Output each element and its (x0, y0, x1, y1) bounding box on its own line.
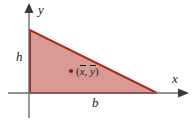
centroid-y-letter: y (90, 65, 95, 77)
x-axis-arrowhead-icon (178, 89, 189, 98)
centroid-point-marker (69, 69, 73, 73)
x-overbar (80, 65, 86, 66)
height-label: h (16, 50, 23, 63)
y-axis-arrowhead-icon (25, 3, 34, 13)
triangle-centroid-figure: y x h b (x, y) (0, 0, 196, 120)
x-axis-label: x (172, 72, 178, 85)
centroid-x-bar: x (80, 66, 85, 77)
centroid-paren-close: ) (95, 65, 99, 77)
y-axis-label: y (38, 3, 44, 16)
centroid-y-bar: y (90, 66, 95, 77)
y-overbar (90, 65, 96, 66)
centroid-x-letter: x (80, 65, 85, 77)
right-triangle-shape (30, 30, 157, 93)
centroid-coordinates-label: (x, y) (76, 66, 99, 77)
base-label: b (92, 96, 99, 109)
